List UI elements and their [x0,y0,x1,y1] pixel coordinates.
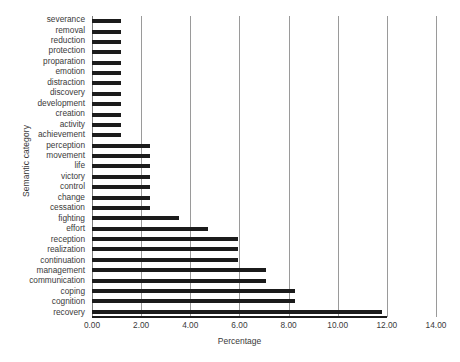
bar [92,123,121,127]
bar-row [92,265,436,275]
category-label: communication [26,275,88,285]
bar-row [92,109,436,119]
category-label: victory [26,171,88,181]
bar-row [92,182,436,192]
bar [92,30,121,34]
category-label: achievement [26,129,88,139]
category-label: removal [26,24,88,34]
bar-row [92,47,436,57]
category-label: life [26,160,88,170]
bar-row [92,275,436,285]
x-tick-label: 4.00 [182,320,198,330]
category-label: cessation [26,202,88,212]
bar-row [92,234,436,244]
bar-row [92,296,436,306]
bar [92,164,150,168]
category-label: realization [26,244,88,254]
bar-row [92,37,436,47]
bar-row [92,224,436,234]
category-label: movement [26,150,88,160]
bar-row [92,255,436,265]
bar [92,50,121,54]
x-axis-tick-labels: 0.002.004.006.008.0010.0012.0014.00 [92,320,436,332]
category-label: control [26,181,88,191]
bar [92,113,121,117]
bar [92,310,382,314]
x-axis-title: Percentage [92,336,387,346]
bar [92,61,121,65]
bar [92,247,238,251]
category-label: creation [26,108,88,118]
bar-row [92,58,436,68]
bar-row [92,203,436,213]
bar [92,154,150,158]
bar [92,133,121,137]
bar-row [92,99,436,109]
category-label: cognition [26,296,88,306]
bar [92,268,266,272]
x-tick-label: 0.00 [84,320,100,330]
bar-row [92,244,436,254]
bar [92,40,121,44]
bar-row [92,120,436,130]
bar [92,175,150,179]
bar-row [92,172,436,182]
category-label: distraction [26,77,88,87]
bar [92,237,238,241]
bar-row [92,192,436,202]
category-label: effort [26,223,88,233]
bar [92,289,295,293]
bar [92,299,295,303]
category-axis-labels: severanceremovalreductionprotectionpropa… [26,14,88,317]
x-axis-line [92,316,387,318]
bar-row [92,16,436,26]
bar [92,258,238,262]
category-label: discovery [26,87,88,97]
bar [92,71,121,75]
x-tick-label: 8.00 [280,320,296,330]
bar-row [92,78,436,88]
bar [92,81,121,85]
category-label: fighting [26,213,88,223]
bar [92,144,150,148]
bar [92,196,150,200]
category-label: activity [26,119,88,129]
bar [92,216,179,220]
bar [92,185,150,189]
category-label: change [26,192,88,202]
bar-row [92,89,436,99]
category-label: continuation [26,254,88,264]
bar-row [92,213,436,223]
gridline-14 [436,16,437,317]
bar-chart-figure: Semantic category severanceremovalreduct… [0,0,460,362]
bar-row [92,161,436,171]
bar-row [92,130,436,140]
bar [92,19,121,23]
category-label: proparation [26,56,88,66]
category-label: perception [26,139,88,149]
bar [92,279,266,283]
x-tick-label: 2.00 [133,320,149,330]
bar-row [92,26,436,36]
bar-row [92,286,436,296]
x-tick-label: 6.00 [231,320,247,330]
bar-row [92,68,436,78]
plot-area [92,16,436,317]
category-label: recovery [26,307,88,317]
bar [92,92,121,96]
bar [92,206,150,210]
category-label: emotion [26,66,88,76]
category-label: severance [26,14,88,24]
x-tick-label: 10.00 [327,320,348,330]
category-label: development [26,98,88,108]
bar [92,102,121,106]
bar-series [92,16,436,317]
category-label: protection [26,45,88,55]
bar-row [92,151,436,161]
category-label: management [26,265,88,275]
category-label: coping [26,286,88,296]
bar [92,227,208,231]
x-tick-label: 12.00 [376,320,397,330]
bar-row [92,141,436,151]
category-label: reduction [26,35,88,45]
